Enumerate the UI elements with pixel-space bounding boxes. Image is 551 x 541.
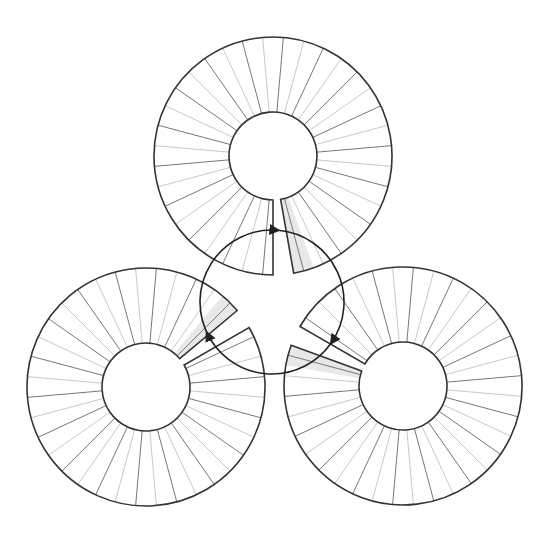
ring-cycle-diagram [0, 0, 551, 541]
shaded-sector [286, 345, 362, 378]
cycle-arrow-2 [278, 230, 344, 343]
ring-top [154, 37, 392, 275]
spokes [27, 268, 264, 505]
spokes [284, 267, 521, 504]
rings-layer [27, 37, 522, 506]
diagram-canvas [0, 0, 551, 541]
ring-bottom-right [284, 267, 522, 505]
ring-bottom-left [27, 268, 265, 506]
